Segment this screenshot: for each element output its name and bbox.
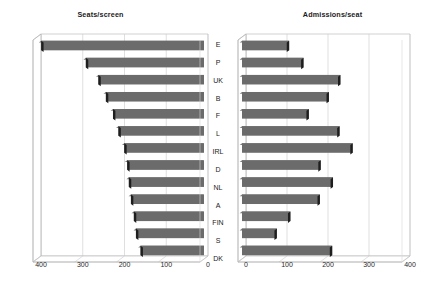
plot-area-left xyxy=(0,0,215,300)
chart-panel-admissions-per-seat: Admissions/seat 0100200300400 xyxy=(220,0,435,300)
x-tick-label-left_panel-1: 300 xyxy=(77,261,89,268)
category-label-b: B xyxy=(198,90,238,108)
x-tick-label-left_panel-0: 400 xyxy=(35,261,47,268)
category-axis: EPUKBFLIRLDNLAFINSDK xyxy=(198,36,238,268)
category-label-nl: NL xyxy=(198,179,238,197)
category-label-d: D xyxy=(198,161,238,179)
category-label-irl: IRL xyxy=(198,143,238,161)
category-label-uk: UK xyxy=(198,72,238,90)
x-tick-label-right_panel-2: 200 xyxy=(322,261,334,268)
category-label-f: F xyxy=(198,107,238,125)
plot-area-right xyxy=(220,0,435,300)
category-label-e: E xyxy=(198,36,238,54)
x-tick-label-right_panel-0: 0 xyxy=(244,261,248,268)
dual-bar-chart-figure: Seats/screen 4003002001000 EPUKBFLIRLDNL… xyxy=(0,0,435,300)
category-label-s: S xyxy=(198,232,238,250)
x-tick-label-right_panel-3: 300 xyxy=(363,261,375,268)
category-label-dk: DK xyxy=(198,250,238,268)
x-tick-label-right_panel-4: 400 xyxy=(404,261,416,268)
x-tick-label-right_panel-1: 100 xyxy=(281,261,293,268)
category-label-a: A xyxy=(198,197,238,215)
x-tick-label-left_panel-3: 100 xyxy=(160,261,172,268)
category-label-l: L xyxy=(198,125,238,143)
category-label-p: P xyxy=(198,54,238,72)
x-tick-label-left_panel-2: 200 xyxy=(119,261,131,268)
chart-panel-seats-per-screen: Seats/screen 4003002001000 xyxy=(0,0,215,300)
category-label-fin: FIN xyxy=(198,214,238,232)
